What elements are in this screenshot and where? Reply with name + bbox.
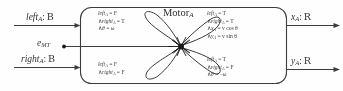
guard-op: =	[106, 25, 109, 31]
guard-op: =	[226, 18, 229, 24]
guard-var: y	[211, 33, 213, 39]
input-label-energy: eMT	[37, 39, 50, 49]
input-label-right-colon: :	[44, 54, 47, 64]
energy-port-dot	[62, 45, 66, 49]
input-label-left-colon: :	[42, 12, 45, 22]
guard-sub: A	[222, 20, 225, 25]
guard-op: =	[117, 18, 120, 24]
guard-var-dotted: ˙y	[211, 33, 213, 41]
input-arrowhead-left	[75, 23, 81, 28]
output-arrowhead-x	[334, 23, 341, 28]
output-label-x: xA: R	[291, 12, 311, 23]
guard-val: v cos θ	[222, 25, 238, 31]
guard-var: θ	[211, 71, 214, 77]
guard-val: T	[121, 18, 124, 24]
guard-line: ∧˙θ = −ω	[207, 71, 234, 79]
guard-line: ∧˙yA = v sin θ	[207, 33, 238, 41]
guard-sub: A	[214, 12, 217, 17]
guard-line: leftA = F	[98, 10, 125, 18]
guard-var: right	[102, 69, 113, 75]
guard-line: leftA = T	[207, 10, 238, 18]
guard-op: =	[218, 56, 221, 62]
guard-val: T	[230, 18, 233, 24]
output-label-x-type: R	[304, 11, 311, 22]
input-label-energy-subscript: MT	[41, 41, 50, 48]
motor-hybrid-automaton-figure: leftA: B eMT rightA: B xA: R yA: R Motor…	[0, 0, 343, 91]
guard-val: F	[114, 10, 117, 16]
input-label-right: rightA: B	[21, 54, 55, 65]
guard-val: F	[114, 61, 117, 67]
guard-op: =	[215, 71, 218, 77]
guard-op: =	[109, 10, 112, 16]
guard-val: v sin θ	[222, 33, 237, 39]
block-title-text: Motor	[163, 7, 189, 18]
guard-line: leftA = T	[207, 56, 234, 64]
guard-sub: A	[213, 35, 216, 40]
input-label-right-name: right	[21, 54, 39, 64]
guard-var-dotted: ˙θ	[102, 25, 105, 33]
output-label-x-colon: :	[299, 12, 302, 22]
guard-line: ∧rightA = F	[98, 69, 125, 77]
state-node	[178, 44, 184, 50]
guard-sub: A	[113, 71, 116, 76]
guard-op: =	[217, 33, 220, 39]
guard-sub: A	[214, 58, 217, 63]
output-label-y-colon: :	[299, 56, 302, 66]
transition-label-stopped: leftA = F ∧rightA = F	[98, 61, 125, 76]
guard-var-dotted: ˙θ	[211, 71, 214, 79]
output-arrowhead-y	[334, 67, 341, 72]
guard-op: =	[109, 61, 112, 67]
guard-var: θ	[102, 25, 105, 31]
input-label-left: leftA: B	[26, 12, 54, 23]
input-arrowhead-right	[75, 65, 81, 70]
output-label-y-type: R	[304, 55, 311, 66]
guard-val: −ω	[220, 71, 227, 77]
guard-sub: A	[113, 20, 116, 25]
guard-op: =	[117, 69, 120, 75]
guard-val: T	[223, 10, 226, 16]
transition-label-drive-forward: leftA = T ∧rightA = T ∧˙xA = v cos θ ∧˙y…	[207, 10, 238, 41]
input-label-left-name: left	[26, 12, 38, 22]
guard-sub: A	[105, 12, 108, 17]
guard-op: =	[218, 10, 221, 16]
guard-val: F	[121, 69, 124, 75]
guard-sub: A	[213, 27, 216, 32]
guard-sub: A	[105, 63, 108, 68]
guard-val: T	[223, 56, 226, 62]
input-label-right-type: B	[48, 53, 55, 64]
block-title: MotorA	[163, 7, 194, 20]
guard-sub: A	[222, 66, 225, 71]
output-label-y: yA: R	[291, 56, 311, 67]
guard-op: =	[217, 25, 220, 31]
guard-val: ω	[111, 25, 115, 31]
block-title-subscript: A	[189, 11, 193, 19]
guard-line: leftA = F	[98, 61, 125, 69]
transition-label-turn-left: leftA = F ∧rightA = T ∧˙θ = ω	[98, 10, 125, 33]
input-label-left-type: B	[47, 11, 54, 22]
guard-op: =	[226, 64, 229, 70]
guard-line: ∧˙θ = ω	[98, 25, 125, 33]
transition-label-turn-right: leftA = T ∧rightA = F ∧˙θ = −ω	[207, 56, 234, 79]
guard-val: F	[230, 64, 233, 70]
